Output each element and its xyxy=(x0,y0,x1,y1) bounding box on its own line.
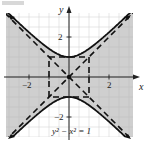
y-tick-label-2: 2 xyxy=(58,32,63,42)
x-tick-label-neg2: −2 xyxy=(22,80,32,90)
y-axis-arrow-icon xyxy=(67,6,72,13)
x-axis-label: x xyxy=(138,81,144,92)
x-tick-label-2: 2 xyxy=(107,80,112,90)
hyperbola-graph: −2 2 2 −2 x y y² − x² = 1 xyxy=(0,0,148,144)
center-point xyxy=(67,75,71,79)
y-axis-label: y xyxy=(58,4,64,15)
y-tick-label-neg2: −2 xyxy=(54,112,64,122)
x-axis-arrow-icon xyxy=(133,75,140,80)
equation-label: y² − x² = 1 xyxy=(51,126,91,136)
